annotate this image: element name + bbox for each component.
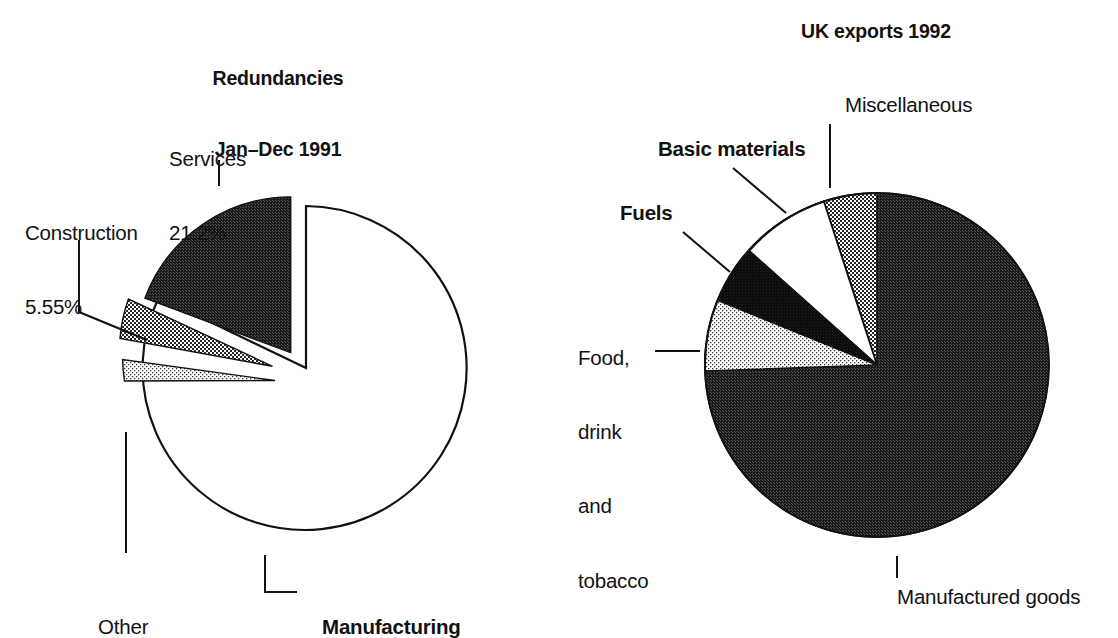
chart-title-uk-exports: UK exports 1992	[740, 20, 1012, 44]
leader-fuels	[683, 232, 730, 272]
label-other-name: Other	[98, 615, 155, 638]
label-food-line4: tobacco	[578, 569, 648, 594]
label-food-line1: Food,	[578, 346, 648, 371]
label-construction: Construction 5.55%	[25, 171, 138, 369]
label-manufacturing-name: Manufacturing	[322, 615, 461, 638]
label-construction-name: Construction	[25, 221, 138, 246]
label-food-line3: and	[578, 494, 648, 519]
leader-basic-materials	[733, 168, 786, 213]
label-food-drink-tobacco: Food, drink and tobacco	[578, 296, 648, 638]
label-miscellaneous: Miscellaneous	[845, 93, 972, 118]
label-manufactured-goods: Manufactured goods	[897, 585, 1080, 610]
label-construction-value: 5.55%	[25, 295, 138, 320]
label-services-value: 21.2%	[169, 221, 246, 246]
label-other: Other 2.96%	[98, 565, 155, 638]
leader-manufacturing	[265, 555, 297, 592]
label-food-line2: drink	[578, 420, 648, 445]
label-services-name: Services	[169, 147, 246, 172]
label-fuels: Fuels	[620, 201, 673, 226]
label-services: Services 21.2%	[169, 97, 246, 295]
figure-canvas: Redundancies Jan–Dec 1991 Services 21.2%…	[0, 0, 1118, 638]
pie-uk-exports	[705, 193, 1049, 537]
label-manufacturing: Manufacturing 70.3%	[322, 565, 461, 638]
label-basic-materials: Basic materials	[658, 137, 805, 162]
chart-title-redundancies-line1: Redundancies	[158, 67, 398, 91]
